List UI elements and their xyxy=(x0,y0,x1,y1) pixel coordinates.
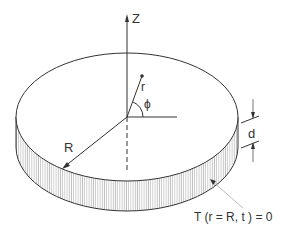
boundary-condition-label: T (r = R, t ) = 0 xyxy=(194,211,272,223)
disk-drawing xyxy=(0,0,291,235)
z-axis-label: Z xyxy=(132,12,140,25)
boundary-leader xyxy=(210,179,243,208)
phi-label: ϕ xyxy=(144,98,151,110)
disk-diagram: Z r ϕ R d T (r = R, t ) = 0 xyxy=(0,0,291,235)
thickness-label: d xyxy=(248,127,255,140)
r-label: r xyxy=(141,81,145,93)
radius-label: R xyxy=(64,141,73,154)
